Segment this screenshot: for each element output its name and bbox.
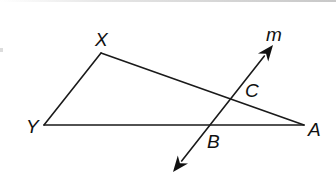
label-b: B bbox=[207, 131, 220, 152]
label-x: X bbox=[94, 29, 109, 50]
label-m: m bbox=[266, 24, 282, 45]
line-m-body bbox=[182, 56, 265, 161]
segment-xa bbox=[101, 53, 304, 125]
arrowhead-down-icon bbox=[173, 155, 188, 172]
triangle-diagram: X Y A B C m bbox=[0, 0, 336, 182]
point-labels: X Y A B C m bbox=[26, 24, 321, 152]
segment-xy bbox=[44, 53, 101, 125]
label-y: Y bbox=[26, 116, 40, 137]
arrowhead-up-icon bbox=[258, 45, 273, 62]
label-c: C bbox=[245, 80, 259, 101]
label-a: A bbox=[307, 119, 321, 140]
triangle-xya bbox=[44, 53, 304, 125]
